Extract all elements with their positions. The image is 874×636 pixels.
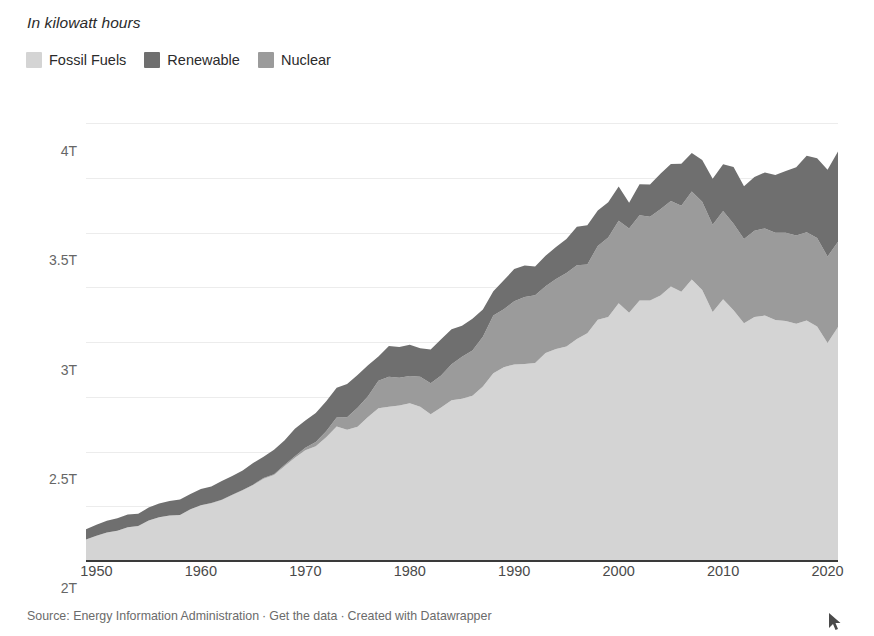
plot-area: 0500B1T1.5T2T2.5T3T3.5T4T <box>86 96 838 561</box>
x-axis-tick-label: 2010 <box>707 563 739 579</box>
legend-swatch-fossil-fuels <box>26 52 42 68</box>
legend-swatch-nuclear <box>258 52 274 68</box>
x-axis-tick-label: 1950 <box>80 563 112 579</box>
legend-label-renewable: Renewable <box>167 52 240 68</box>
footer-source: Source: Energy Information Administratio… <box>27 609 259 623</box>
mouse-pointer-icon <box>827 612 843 632</box>
x-axis-tick-label: 1970 <box>289 563 321 579</box>
x-axis-tick-label: 1960 <box>185 563 217 579</box>
footer-separator-2: · <box>340 609 344 623</box>
footer-separator-1: · <box>262 609 266 623</box>
y-axis-tick-label: 2.5T <box>49 471 77 487</box>
x-axis: 19501960197019801990200020102020 <box>86 563 838 589</box>
created-with-datawrapper-link[interactable]: Created with Datawrapper <box>348 609 492 623</box>
y-axis-tick-label: 4T <box>61 143 77 159</box>
legend-item-nuclear[interactable]: Nuclear <box>258 52 331 68</box>
legend-label-nuclear: Nuclear <box>281 52 331 68</box>
chart-legend: Fossil Fuels Renewable Nuclear <box>26 52 349 68</box>
legend-swatch-renewable <box>144 52 160 68</box>
stacked-area-series <box>86 96 838 561</box>
area-band-fossil-fuels <box>86 280 838 561</box>
y-axis-tick-label: 3T <box>61 362 77 378</box>
x-axis-tick-label: 1990 <box>498 563 530 579</box>
x-axis-tick-label: 2000 <box>603 563 635 579</box>
legend-item-fossil-fuels[interactable]: Fossil Fuels <box>26 52 126 68</box>
get-the-data-link[interactable]: Get the data <box>269 609 337 623</box>
y-axis-tick-label: 2T <box>61 580 77 596</box>
y-axis-tick-label: 3.5T <box>49 252 77 268</box>
axis-baseline <box>86 560 838 562</box>
legend-item-renewable[interactable]: Renewable <box>144 52 240 68</box>
x-axis-tick-label: 2020 <box>811 563 843 579</box>
x-axis-tick-label: 1980 <box>394 563 426 579</box>
chart-container: In kilowatt hours Fossil Fuels Renewable… <box>0 0 874 636</box>
chart-footer: Source: Energy Information Administratio… <box>27 609 492 623</box>
legend-label-fossil-fuels: Fossil Fuels <box>49 52 126 68</box>
chart-subtitle: In kilowatt hours <box>27 14 141 32</box>
